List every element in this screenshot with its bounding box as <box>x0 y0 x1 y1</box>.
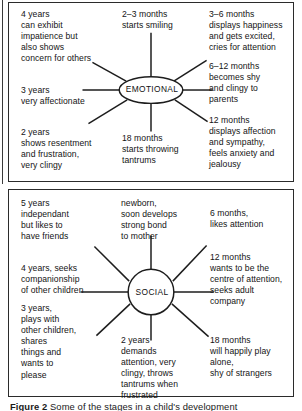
leaf-social-newborn: newborn, soon develops strong bond to mo… <box>121 198 209 242</box>
leaf-social-4-years: 4 years, seeks companionship of other ch… <box>21 263 125 296</box>
connector-18-months <box>172 304 209 337</box>
panel-social: SOCIAL 5 years independant but likes to … <box>8 189 294 397</box>
social-node-label: SOCIAL <box>122 287 182 297</box>
connector-6-months <box>173 245 207 281</box>
figure-caption: Figure 2 Some of the stages in a child's… <box>10 401 300 411</box>
leaf-emotional-3-years: 3 years very affectionate <box>21 85 101 107</box>
leaf-emotional-18-months: 18 months starts throwing tantrums <box>122 133 208 166</box>
leaf-social-12-months: 12 months wants to be the centre of atte… <box>210 252 298 307</box>
leaf-emotional-6-12-months: 6–12 months becomes shy and clingy to pa… <box>209 61 297 105</box>
leaf-emotional-3-6-months: 3–6 months displays happiness and gets e… <box>209 9 297 53</box>
page-edge-rule <box>2 0 3 184</box>
leaf-emotional-12-months: 12 months displays affection and sympath… <box>209 115 297 170</box>
leaf-social-5-years: 5 years independant but likes to have fr… <box>21 198 113 242</box>
leaf-emotional-4-years: 4 years can exhibit impatience but also … <box>21 9 121 64</box>
emotional-node-label: EMOTIONAL <box>120 84 184 94</box>
panel-emotional: EMOTIONAL 4 years can exhibit impatience… <box>8 2 294 182</box>
connector-12-months <box>175 100 208 122</box>
leaf-social-3-years: 3 years, plays with other children, shar… <box>21 303 113 381</box>
leaf-social-6-months: 6 months, likes attention <box>210 208 296 230</box>
connector-3-6-months <box>174 60 207 81</box>
figure-caption-text: Some of the stages in a child's developm… <box>50 401 237 411</box>
leaf-emotional-2-3-months: 2–3 months starts smiling <box>122 9 208 31</box>
connector-4-years <box>92 62 126 81</box>
leaf-social-2-years: 2 years demands attention, very clingy, … <box>121 335 207 402</box>
leaf-emotional-2-years: 2 years shows resentment and frustration… <box>21 127 121 171</box>
figure-caption-number: Figure 2 <box>10 401 47 411</box>
figure-page: EMOTIONAL 4 years can exhibit impatience… <box>0 0 302 411</box>
leaf-social-18-months: 18 months will happily play alone, shy o… <box>210 335 298 379</box>
